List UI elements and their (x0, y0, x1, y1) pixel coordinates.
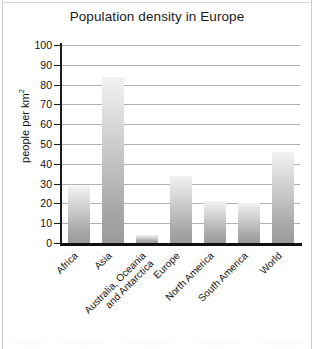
gridline (62, 104, 300, 105)
bar (68, 186, 90, 243)
bar (204, 201, 226, 243)
y-axis-tick (54, 45, 61, 46)
x-axis-line (60, 243, 302, 246)
x-axis-tick-label: Asia (92, 250, 114, 272)
gridline (62, 65, 300, 66)
y-axis-tick-label: 50 (8, 139, 52, 149)
y-axis-tick (54, 184, 61, 185)
bar (136, 235, 158, 243)
y-axis-tick-label: 80 (8, 80, 52, 90)
y-axis-tick-label: 30 (8, 179, 52, 189)
bar (170, 176, 192, 243)
x-axis-tick-label: World (258, 250, 284, 276)
y-axis-tick (54, 85, 61, 86)
y-axis-tick (54, 144, 61, 145)
y-axis-tick-label: 90 (8, 60, 52, 70)
plot-area (62, 45, 300, 243)
gridline (62, 124, 300, 125)
bar (272, 152, 294, 243)
gridline (62, 164, 300, 165)
gridline (62, 144, 300, 145)
frame-border-right (311, 0, 312, 349)
bar (238, 203, 260, 243)
y-axis-tick-labels: 0102030405060708090100 (0, 0, 52, 349)
x-axis-tick-label: Africa (54, 250, 80, 276)
y-axis-tick-label: 10 (8, 218, 52, 228)
y-axis-tick-label: 70 (8, 99, 52, 109)
bar (102, 77, 124, 243)
y-axis-tick (54, 203, 61, 204)
gridline (62, 85, 300, 86)
gridline (62, 45, 300, 46)
y-axis-tick (54, 65, 61, 66)
bottom-edge-artifact (4, 340, 310, 345)
y-axis-tick-label: 60 (8, 119, 52, 129)
y-axis-tick-label: 100 (8, 40, 52, 50)
chart-figure: Population density in Europe people per … (0, 0, 314, 349)
y-axis-tick-label: 20 (8, 198, 52, 208)
y-axis-tick-label: 40 (8, 159, 52, 169)
y-axis-tick (54, 223, 61, 224)
y-axis-tick (54, 164, 61, 165)
y-axis-tick (54, 243, 61, 244)
y-axis-tick (54, 124, 61, 125)
y-axis-tick-label: 0 (8, 238, 52, 248)
y-axis-tick (54, 104, 61, 105)
